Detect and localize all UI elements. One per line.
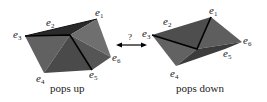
left-polyhedron: [25, 19, 111, 73]
label-e3-right: e3: [142, 27, 151, 41]
label-e5-right: e5: [223, 47, 232, 61]
label-e4-left: e4: [36, 72, 45, 86]
label-e6-left: e6: [112, 51, 121, 65]
diagram-canvas: ? e1 e2 e3 e4 e5 e6 e1 e2 e3 e4 e5 e6 po…: [0, 0, 267, 102]
label-e3-left: e3: [13, 28, 22, 42]
label-e1-left: e1: [95, 6, 104, 20]
label-e4-right: e4: [170, 67, 179, 81]
label-e2-left: e2: [46, 16, 55, 30]
label-e2-right: e2: [163, 15, 172, 29]
label-e6-right: e6: [243, 34, 252, 48]
caption-pops-down: pops down: [176, 82, 224, 94]
label-e5-left: e5: [89, 68, 98, 82]
arrow-question-label: ?: [128, 32, 132, 42]
label-e1-right: e1: [209, 4, 218, 18]
caption-pops-up: pops up: [50, 82, 85, 94]
